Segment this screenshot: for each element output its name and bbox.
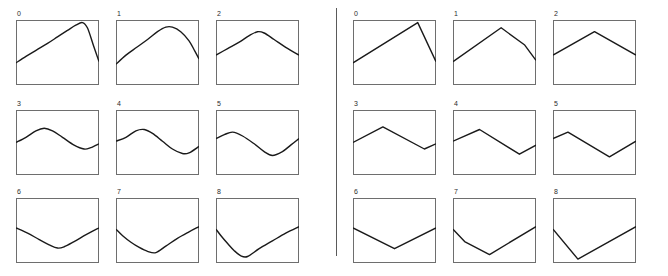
line-plot [16,20,99,85]
chart-panel[interactable]: 1 [453,20,536,85]
chart-panel[interactable]: 0 [16,20,99,85]
line-plot [553,110,636,175]
panel-label: 5 [554,99,558,108]
chart-panel[interactable]: 8 [553,198,636,263]
panel-label: 8 [554,187,558,196]
chart-panel[interactable]: 3 [16,110,99,175]
panel-label: 7 [117,187,121,196]
chart-panel[interactable]: 2 [553,20,636,85]
panel-label: 5 [217,99,221,108]
panel-label: 0 [354,9,358,18]
panel-label: 8 [217,187,221,196]
panel-label: 6 [354,187,358,196]
line-plot [216,20,299,85]
panel-label: 4 [117,99,121,108]
chart-panel[interactable]: 3 [353,110,436,175]
line-plot [216,110,299,175]
line-plot [453,110,536,175]
line-plot [116,20,199,85]
chart-panel[interactable]: 0 [353,20,436,85]
line-plot [553,20,636,85]
panel-group-linear: 0 1 2 3 4 5 6 [337,0,668,276]
line-plot [353,110,436,175]
line-plot [453,20,536,85]
chart-panel[interactable]: 4 [116,110,199,175]
line-plot [453,198,536,263]
chart-panel[interactable]: 2 [216,20,299,85]
panel-label: 0 [17,9,21,18]
chart-panel[interactable]: 1 [116,20,199,85]
chart-panel[interactable]: 7 [116,198,199,263]
panel-label: 1 [454,9,458,18]
line-plot [16,110,99,175]
line-plot [353,20,436,85]
panel-label: 3 [17,99,21,108]
chart-panel[interactable]: 8 [216,198,299,263]
chart-panel[interactable]: 6 [16,198,99,263]
panel-label: 4 [454,99,458,108]
chart-panel[interactable]: 7 [453,198,536,263]
chart-panel[interactable]: 4 [453,110,536,175]
line-plot [16,198,99,263]
small-multiples-figure: 0 1 2 3 4 5 6 [0,0,668,276]
panel-label: 6 [17,187,21,196]
line-plot [116,110,199,175]
line-plot [553,198,636,263]
chart-panel[interactable]: 5 [553,110,636,175]
panel-group-smooth: 0 1 2 3 4 5 6 [0,0,331,276]
line-plot [216,198,299,263]
line-plot [353,198,436,263]
chart-panel[interactable]: 6 [353,198,436,263]
panel-label: 3 [354,99,358,108]
chart-panel[interactable]: 5 [216,110,299,175]
panel-label: 2 [217,9,221,18]
panel-label: 2 [554,9,558,18]
line-plot [116,198,199,263]
panel-label: 1 [117,9,121,18]
panel-label: 7 [454,187,458,196]
